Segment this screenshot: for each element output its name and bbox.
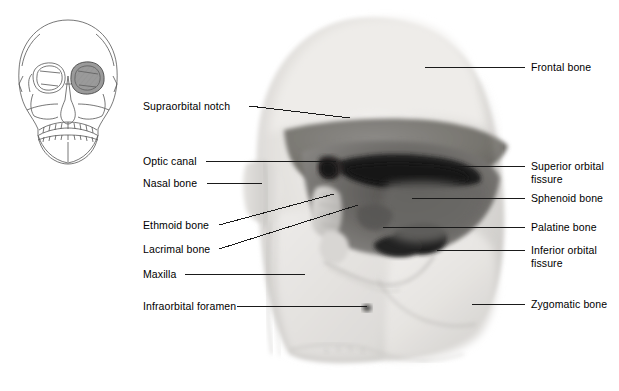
label-superior-orbital-fissure: Superior orbital fissure: [531, 160, 604, 185]
label-inferior-orbital-fissure: Inferior orbital fissure: [531, 244, 597, 269]
label-nasal-bone: Nasal bone: [143, 177, 197, 190]
label-optic-canal: Optic canal: [143, 155, 197, 168]
highlighted-right-orbit: [71, 62, 104, 94]
label-infraorbital-foramen: Infraorbital foramen: [143, 300, 236, 313]
label-lacrimal-bone: Lacrimal bone: [143, 243, 210, 256]
orbit-photograph: [228, 12, 528, 372]
inset-skull-diagram: [8, 14, 128, 179]
label-sphenoid-bone: Sphenoid bone: [531, 192, 603, 205]
label-ethmoid-bone: Ethmoid bone: [143, 219, 209, 232]
label-zygomatic-bone: Zygomatic bone: [531, 298, 607, 311]
orbit-anatomy-figure: Supraorbital notch Optic canal Nasal bon…: [0, 0, 619, 391]
infraorbital-foramen-mark: [363, 305, 372, 312]
label-frontal-bone: Frontal bone: [531, 61, 591, 74]
label-palatine-bone: Palatine bone: [531, 221, 597, 234]
label-maxilla: Maxilla: [143, 268, 176, 281]
label-supraorbital-notch: Supraorbital notch: [143, 100, 230, 113]
